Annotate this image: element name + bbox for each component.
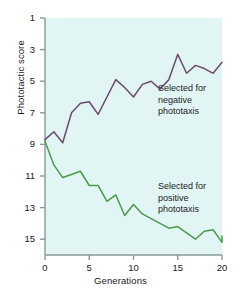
y-tick-label: 3: [17, 45, 35, 55]
chart-plot-area: [0, 0, 241, 298]
x-tick-label: 15: [168, 263, 188, 273]
annotation-line: negative: [158, 95, 206, 107]
positive-annotation: Selected forpositivephototaxis: [158, 181, 206, 216]
chart-figure: Phototactic score Generations 1357911131…: [0, 0, 241, 298]
annotation-line: Selected for: [158, 83, 206, 95]
y-tick-label: 1: [17, 13, 35, 23]
y-tick-label: 9: [17, 139, 35, 149]
x-tick-label: 20: [212, 263, 232, 273]
negative-annotation: Selected fornegativephototaxis: [158, 83, 206, 118]
plot-background: [45, 18, 222, 255]
x-tick-label: 10: [124, 263, 144, 273]
annotation-line: phototaxis: [158, 204, 206, 216]
annotation-line: phototaxis: [158, 106, 206, 118]
x-axis-title: Generations: [0, 275, 241, 286]
y-tick-label: 7: [17, 108, 35, 118]
x-tick-label: 0: [35, 263, 55, 273]
y-tick-label: 5: [17, 76, 35, 86]
annotation-line: Selected for: [158, 181, 206, 193]
y-axis-ticks: [40, 18, 45, 239]
y-tick-label: 13: [17, 203, 35, 213]
y-tick-label: 11: [17, 171, 35, 181]
x-tick-label: 5: [79, 263, 99, 273]
y-tick-label: 15: [17, 234, 35, 244]
x-axis-ticks: [45, 255, 222, 260]
annotation-line: positive: [158, 193, 206, 205]
